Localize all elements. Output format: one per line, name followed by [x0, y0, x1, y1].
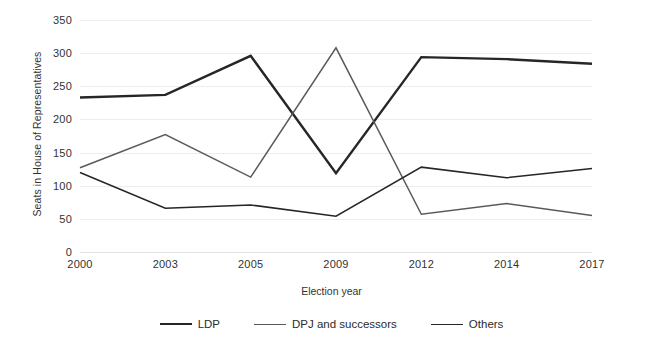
series-line-dpj-and-successors — [80, 48, 592, 216]
x-tick-label-2017: 2017 — [579, 258, 604, 270]
legend-label: DPJ and successors — [292, 318, 397, 330]
x-tick-label-2003: 2003 — [153, 258, 178, 270]
y-tick-label-150: 150 — [34, 147, 72, 159]
legend-label: Others — [469, 318, 504, 330]
y-tick-label-100: 100 — [34, 180, 72, 192]
chart-legend: LDPDPJ and successorsOthers — [0, 318, 663, 330]
series-line-ldp — [80, 56, 592, 173]
x-tick-label-2014: 2014 — [494, 258, 519, 270]
legend-swatch-icon — [431, 324, 463, 325]
y-tick-label-350: 350 — [34, 14, 72, 26]
x-tick-label-2000: 2000 — [67, 258, 92, 270]
x-axis-tick-labels: 2000200320052009201220142017 — [80, 258, 592, 274]
legend-label: LDP — [198, 318, 220, 330]
legend-item-dpj-and-successors[interactable]: DPJ and successors — [254, 318, 397, 330]
y-tick-label-0: 0 — [34, 246, 72, 258]
legend-swatch-icon — [160, 323, 192, 325]
legend-item-ldp[interactable]: LDP — [160, 318, 220, 330]
y-tick-label-250: 250 — [34, 80, 72, 92]
x-axis-title: Election year — [0, 285, 663, 297]
line-chart: Seats in House of Representatives 050100… — [0, 0, 663, 344]
x-tick-label-2012: 2012 — [409, 258, 434, 270]
y-tick-label-300: 300 — [34, 47, 72, 59]
plot-area — [80, 20, 592, 252]
series-lines — [80, 20, 592, 252]
legend-item-others[interactable]: Others — [431, 318, 504, 330]
gridline-0 — [80, 252, 592, 253]
x-tick-label-2009: 2009 — [323, 258, 348, 270]
legend-swatch-icon — [254, 324, 286, 325]
x-tick-label-2005: 2005 — [238, 258, 263, 270]
y-tick-label-50: 50 — [34, 213, 72, 225]
y-tick-label-200: 200 — [34, 113, 72, 125]
